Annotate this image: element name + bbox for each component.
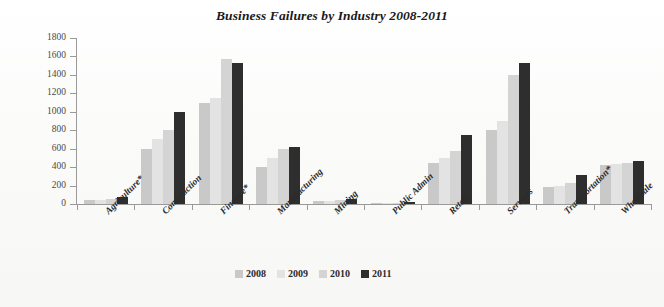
chart-title: Business Failures by Industry 2008-2011 (0, 8, 664, 24)
bar-2011[interactable] (519, 63, 530, 204)
legend-swatch-icon (235, 270, 243, 278)
bar-2010[interactable] (221, 59, 232, 204)
bar-2009[interactable] (267, 158, 278, 204)
bar-2008[interactable] (199, 103, 210, 204)
y-axis-labels: 020040060080010001200140016001800 (22, 0, 66, 307)
legend-label: 2008 (246, 268, 266, 279)
legend-item-2010[interactable]: 2010 (319, 268, 350, 279)
legend-label: 2010 (330, 268, 350, 279)
y-axis-tick-label: 1800 (22, 33, 66, 43)
bar-2009[interactable] (324, 201, 335, 204)
x-axis-tick (249, 205, 250, 210)
legend-label: 2011 (372, 268, 391, 279)
bar-group (256, 38, 300, 204)
bar-2009[interactable] (439, 158, 450, 204)
x-axis-tick (536, 205, 537, 210)
x-axis-tick (421, 205, 422, 210)
legend-label: 2009 (288, 268, 308, 279)
legend-swatch-icon (361, 270, 369, 278)
bar-2008[interactable] (256, 167, 267, 204)
legend-item-2009[interactable]: 2009 (277, 268, 308, 279)
bar-group (84, 38, 128, 204)
bar-group (313, 38, 357, 204)
y-axis-tick-label: 1000 (22, 107, 66, 117)
bar-2008[interactable] (486, 130, 497, 204)
y-axis-tick-label: 400 (22, 162, 66, 172)
bar-group (600, 38, 644, 204)
bar-group (543, 38, 587, 204)
legend-swatch-icon (277, 270, 285, 278)
bar-2008[interactable] (84, 200, 95, 204)
legend-item-2011[interactable]: 2011 (361, 268, 391, 279)
bar-group (486, 38, 530, 204)
x-axis-tick (134, 205, 135, 210)
bar-2008[interactable] (543, 187, 554, 204)
plot-area (77, 38, 651, 204)
bar-2010[interactable] (163, 130, 174, 204)
x-axis-tick (594, 205, 595, 210)
y-axis-tick-label: 200 (22, 181, 66, 191)
chart-page: Business Failures by Industry 2008-2011 … (0, 0, 664, 307)
bar-group (371, 38, 415, 204)
bar-2009[interactable] (497, 121, 508, 204)
x-axis-tick (479, 205, 480, 210)
y-axis-tick-label: 0 (22, 199, 66, 209)
x-axis-tick (77, 205, 78, 210)
bar-2011[interactable] (232, 63, 243, 204)
bar-group (199, 38, 243, 204)
bar-2010[interactable] (508, 75, 519, 204)
chart-legend: 2008200920102011 (235, 268, 391, 279)
y-axis-tick-label: 1600 (22, 51, 66, 61)
bar-2009[interactable] (210, 98, 221, 204)
bar-group (141, 38, 185, 204)
x-axis-tick (307, 205, 308, 210)
x-axis-tick (192, 205, 193, 210)
bar-2008[interactable] (371, 203, 382, 204)
y-axis-tick-label: 1200 (22, 88, 66, 98)
y-axis-tick-label: 800 (22, 125, 66, 135)
legend-swatch-icon (319, 270, 327, 278)
bar-2009[interactable] (95, 200, 106, 204)
x-axis-tick (364, 205, 365, 210)
legend-item-2008[interactable]: 2008 (235, 268, 266, 279)
y-axis-tick-label: 600 (22, 144, 66, 154)
bar-2008[interactable] (141, 149, 152, 204)
bar-group (428, 38, 472, 204)
y-axis-tick-label: 1400 (22, 70, 66, 80)
x-axis-tick (651, 205, 652, 210)
bar-2009[interactable] (152, 139, 163, 204)
bar-2009[interactable] (382, 203, 393, 204)
bar-2009[interactable] (554, 186, 565, 204)
bar-2008[interactable] (313, 201, 324, 204)
